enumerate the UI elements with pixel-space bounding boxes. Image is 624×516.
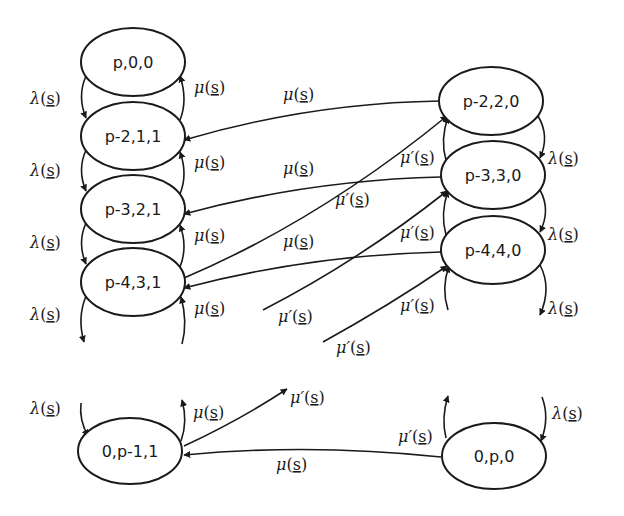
lambda-rate-label: λ(s)	[29, 305, 61, 324]
edge-lambda-p330-to-p440	[540, 190, 546, 232]
mu-rate-label: μ(s)	[194, 153, 225, 172]
mu-prime-rate-label: μ′(s)	[400, 223, 435, 242]
mu-prime-rate-label: μ′(s)	[400, 296, 435, 315]
state-node-label: p-2,2,0	[463, 92, 520, 111]
state-node-p431: p-4,3,1	[81, 248, 185, 316]
state-node-p211: p-2,1,1	[81, 102, 185, 170]
state-node-label: 0,p,0	[474, 447, 515, 466]
edge-mu-p431-to-p321	[180, 225, 184, 267]
lambda-rate-label: λ(s)	[547, 149, 579, 168]
mu-prime-rate-label: μ′(s)	[336, 338, 371, 357]
state-node-label: p-4,3,1	[105, 273, 162, 292]
lambda-rate-label: λ(s)	[29, 399, 61, 418]
edge-mu-in-to-p431	[181, 297, 185, 344]
lambda-rate-label: λ(s)	[551, 404, 583, 423]
lambda-rate-label: λ(s)	[547, 225, 579, 244]
edge-mu-p211-to-p00	[180, 76, 184, 120]
edge-lambda-in-to-0p11	[81, 403, 88, 436]
lambda-rate-label: λ(s)	[29, 161, 61, 180]
state-node-p440: p-4,4,0	[441, 216, 545, 284]
lambda-rate-label: λ(s)	[29, 233, 61, 252]
lambda-rate-label: λ(s)	[547, 299, 579, 318]
mu-rate-label: μ(s)	[194, 226, 225, 245]
mu-rate-label: μ(s)	[283, 232, 314, 251]
state-node-label: p-2,1,1	[105, 127, 162, 146]
edge-lambda-p00-to-p211	[82, 76, 87, 118]
state-node-label: p-3,2,1	[105, 200, 162, 219]
edge-muprime-in-to-p440	[445, 266, 449, 310]
edge-mu-0p0-to-0p11	[184, 449, 441, 457]
mu-prime-rate-label: μ′(s)	[335, 190, 370, 209]
edge-lambda-p211-to-p321	[82, 150, 87, 191]
state-node-p220: p-2,2,0	[439, 67, 543, 135]
state-node-p321: p-3,2,1	[81, 175, 185, 243]
state-node-label: p-4,4,0	[465, 241, 522, 260]
mu-rate-label: μ(s)	[283, 85, 314, 104]
state-node-0p11: 0,p-1,1	[78, 418, 182, 484]
state-node-0p0: 0,p,0	[442, 423, 546, 489]
edge-mu-0p11-out	[181, 400, 185, 441]
edge-mu-p330-to-p321	[184, 177, 441, 214]
state-node-label: p-3,3,0	[465, 166, 522, 185]
mu-prime-rate-label: μ′(s)	[278, 307, 313, 326]
mu-rate-label: μ(s)	[283, 159, 314, 178]
edge-muprime-p330-to-p220	[443, 117, 448, 160]
edge-lambda-p220-to-p330	[538, 116, 545, 158]
lambda-rate-label: λ(s)	[29, 89, 61, 108]
mu-rate-label: μ(s)	[194, 299, 225, 318]
state-node-label: 0,p-1,1	[102, 442, 159, 461]
edge-lambda-in-to-0p0	[541, 397, 546, 441]
state-node-p330: p-3,3,0	[441, 141, 545, 209]
edge-muprime-0p0-out	[444, 396, 448, 438]
state-node-label: p,0,0	[113, 53, 154, 72]
mu-prime-rate-label: μ′(s)	[290, 388, 325, 407]
mu-rate-label: μ(s)	[194, 78, 225, 97]
mu-prime-rate-label: μ′(s)	[400, 148, 435, 167]
edge-mu-p321-to-p211	[180, 152, 184, 194]
edge-muprime-p440-to-p330	[443, 191, 448, 235]
edge-lambda-p431-out	[81, 296, 86, 342]
mu-rate-label: μ(s)	[276, 455, 307, 474]
edge-lambda-p321-to-p431	[82, 223, 87, 264]
edge-lambda-p440-out	[540, 265, 546, 315]
edge-mu-p220-to-p211	[184, 101, 440, 140]
mu-prime-rate-label: μ′(s)	[398, 427, 433, 446]
mu-rate-label: μ(s)	[193, 403, 224, 422]
state-transition-diagram: p,0,0 p-2,1,1 p-3,2,1 p-4,3,1 p-2,2,0 p-…	[0, 0, 624, 516]
state-node-p00: p,0,0	[81, 28, 185, 96]
